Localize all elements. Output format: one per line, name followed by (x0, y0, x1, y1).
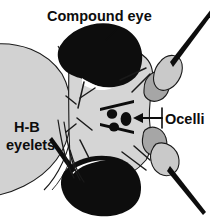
ocellus-dot-lower (109, 122, 119, 131)
ocellus-dot-upper (107, 109, 117, 119)
label-compound-eye: Compound eye (47, 8, 152, 24)
ocellus-dot-median (121, 112, 132, 126)
label-hb-eyelets-line1: H-B (14, 119, 40, 135)
figure-root: Compound eye Ocelli H-B eyelets (0, 0, 210, 218)
label-ocelli: Ocelli (165, 111, 205, 127)
label-hb-eyelets-line2: eyelets (6, 137, 55, 153)
insect-head-diagram: Compound eye Ocelli H-B eyelets (0, 0, 210, 218)
